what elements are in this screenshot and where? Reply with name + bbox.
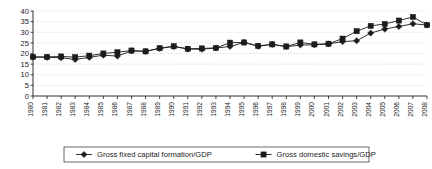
x-axis-label: 2002: [337, 102, 344, 117]
data-point-square: [115, 50, 120, 55]
data-point-square: [185, 46, 190, 51]
x-axis-label: 1995: [238, 102, 245, 117]
data-point-square: [73, 55, 78, 60]
x-axis-label: 1981: [41, 102, 48, 117]
data-point-square: [270, 42, 275, 47]
x-axis-label: 1997: [266, 102, 273, 117]
chart-legend: Gross fixed capital formation/GDPGross d…: [64, 147, 376, 162]
data-point-diamond: [396, 23, 402, 29]
x-axis-label: 2004: [365, 102, 372, 117]
legend-marker-square: [261, 152, 266, 157]
y-axis-label: 25: [21, 39, 29, 48]
x-axis-label: 1993: [210, 102, 217, 117]
data-point-square: [129, 48, 134, 53]
x-axis-label: 1998: [280, 102, 287, 117]
x-axis-label: 1985: [97, 102, 104, 117]
data-point-square: [227, 40, 232, 45]
y-axis-label: 40: [21, 7, 29, 16]
x-axis-label: 1992: [196, 102, 203, 117]
data-point-square: [396, 18, 401, 23]
data-point-square: [312, 42, 317, 47]
x-axis-label: 1983: [69, 102, 76, 117]
data-point-square: [382, 21, 387, 26]
y-axis-label: 0: [25, 92, 29, 101]
y-axis-label: 5: [25, 81, 29, 90]
x-axis-label: 2000: [308, 102, 315, 117]
x-axis-label: 1991: [182, 102, 189, 117]
y-axis-label: 35: [21, 17, 29, 26]
data-point-square: [326, 41, 331, 46]
x-axis-label: 1994: [224, 102, 231, 117]
y-axis-label: 20: [21, 49, 29, 58]
x-axis-label: 2008: [421, 102, 428, 117]
x-axis-label: 1982: [55, 102, 62, 117]
y-axis-label: 30: [21, 28, 29, 37]
data-point-square: [213, 45, 218, 50]
y-gridlines: 0510152025303540: [21, 7, 427, 101]
data-point-square: [157, 46, 162, 51]
data-point-square: [59, 54, 64, 59]
series-line: [33, 17, 427, 57]
data-point-square: [30, 54, 35, 59]
data-point-square: [284, 44, 289, 49]
x-axis-label: 1986: [111, 102, 118, 117]
legend-label: Gross fixed capital formation/GDP: [97, 150, 212, 159]
data-point-square: [143, 49, 148, 54]
data-point-diamond: [382, 26, 388, 32]
data-point-square: [298, 40, 303, 45]
x-axis-label: 1988: [140, 102, 147, 117]
x-axis-label: 1984: [83, 102, 90, 117]
x-axis-label: 2007: [407, 102, 414, 117]
data-point-square: [101, 51, 106, 56]
data-point-square: [256, 43, 261, 48]
x-axis-label: 2001: [323, 102, 330, 117]
data-point-square: [354, 29, 359, 34]
x-axis-label: 1990: [168, 102, 175, 117]
x-axis-label: 2003: [351, 102, 358, 117]
series-savings: [30, 14, 429, 59]
x-axis-label: 1989: [154, 102, 161, 117]
data-point-square: [87, 53, 92, 58]
x-axis-label: 2005: [379, 102, 386, 117]
x-axis-label: 1996: [252, 102, 259, 117]
x-axis-label: 2006: [393, 102, 400, 117]
x-axis-ticks: 1980198119821983198419851986198719881989…: [27, 96, 428, 117]
data-point-square: [199, 46, 204, 51]
legend-marker-diamond: [81, 151, 87, 157]
legend-item[interactable]: Gross fixed capital formation/GDP: [76, 150, 212, 159]
data-point-square: [424, 22, 429, 27]
data-point-diamond: [368, 30, 374, 36]
x-axis-label: 1980: [27, 102, 34, 117]
y-axis-label: 15: [21, 60, 29, 69]
y-axis-label: 10: [21, 70, 29, 79]
x-axis-label: 1999: [294, 102, 301, 117]
line-chart: 0510152025303540198019811982198319841985…: [0, 0, 432, 169]
series-group: [30, 14, 430, 62]
data-point-square: [171, 44, 176, 49]
data-point-square: [44, 54, 49, 59]
data-point-square: [241, 40, 246, 45]
chart-container: 0510152025303540198019811982198319841985…: [0, 0, 432, 169]
legend-item[interactable]: Gross domestic savings/GDP: [256, 150, 376, 159]
data-point-square: [410, 14, 415, 19]
x-axis-label: 1987: [126, 102, 133, 117]
data-point-square: [340, 36, 345, 41]
legend-label: Gross domestic savings/GDP: [277, 150, 376, 159]
data-point-square: [368, 23, 373, 28]
